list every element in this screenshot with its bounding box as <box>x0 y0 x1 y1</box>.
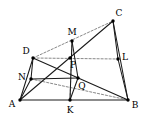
vertex-dot-d <box>31 56 34 59</box>
vertex-dot-q <box>76 76 79 79</box>
vertex-label-p: P <box>70 61 76 70</box>
vertex-dot-n <box>29 77 32 80</box>
vertex-dot-a <box>18 98 21 101</box>
segment-M-K <box>70 41 72 100</box>
vertex-dot-k <box>68 98 71 101</box>
vertex-dot-c <box>111 19 114 22</box>
vertex-label-l: L <box>122 53 128 62</box>
segment-C-L <box>113 21 118 59</box>
vertex-dot-b <box>126 98 129 101</box>
vertex-label-q: Q <box>78 82 85 91</box>
vertex-label-n: N <box>18 73 26 82</box>
vertex-dot-l <box>116 57 119 60</box>
vertex-label-c: C <box>116 9 123 18</box>
vertex-label-a: A <box>9 100 16 109</box>
vertex-label-d: D <box>22 47 29 56</box>
vertex-label-k: K <box>67 106 74 115</box>
segment-L-B <box>118 59 128 100</box>
vertex-dot-m <box>70 39 73 42</box>
segment-Q-K <box>70 78 78 100</box>
vertex-label-b: B <box>132 101 139 110</box>
vertex-label-m: M <box>67 28 76 37</box>
geometry-figure: ABCDNMPQKL <box>0 0 144 123</box>
